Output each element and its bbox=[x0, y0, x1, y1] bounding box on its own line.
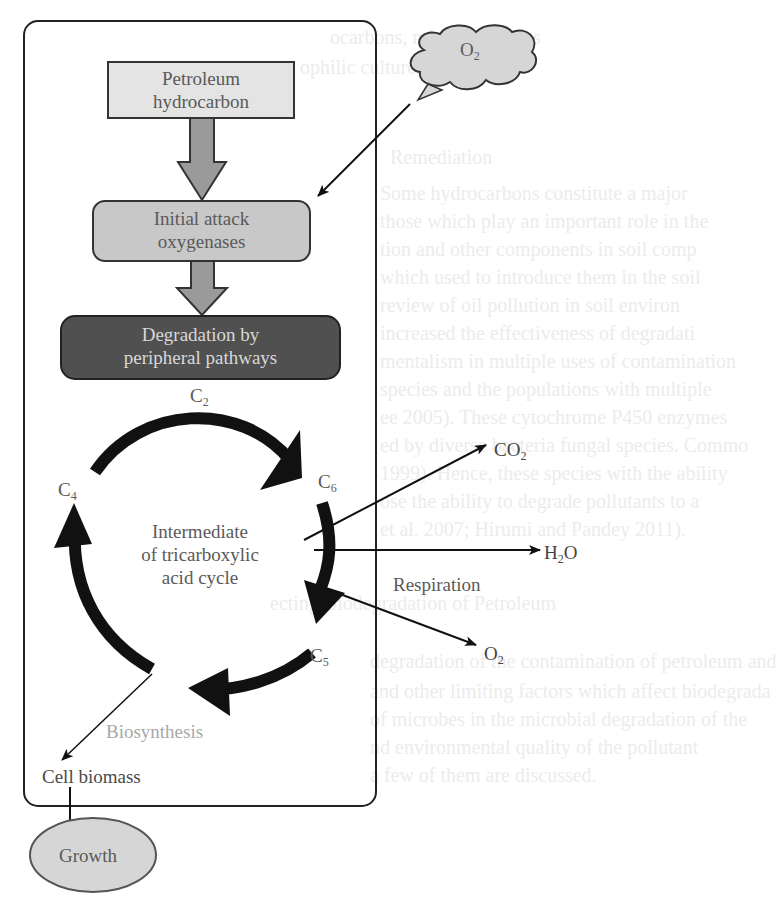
degradation-line2: peripheral pathways bbox=[61, 346, 340, 369]
petroleum-line1: Petroleum bbox=[108, 67, 294, 90]
tca-intermediate-label: Intermediate of tricarboxylic acid cycle bbox=[100, 520, 300, 589]
initial-attack-line2: oxygenases bbox=[93, 230, 310, 253]
c6-label: C6 bbox=[318, 472, 337, 494]
petroleum-line2: hydrocarbon bbox=[108, 90, 294, 113]
down-arrow-1 bbox=[178, 118, 226, 200]
cell-biomass-label: Cell biomass bbox=[42, 767, 141, 786]
growth-label: Growth bbox=[59, 846, 117, 865]
co2-label: CO2 bbox=[494, 440, 526, 462]
c4-label: C4 bbox=[58, 480, 77, 502]
biosynthesis-arrow bbox=[62, 674, 152, 760]
tca-line2: of tricarboxylic bbox=[100, 543, 300, 566]
c2-label: C2 bbox=[190, 386, 209, 408]
down-arrow-2 bbox=[177, 261, 227, 315]
h2o-label: H2O bbox=[544, 543, 577, 565]
cycle-arrowhead-c5 bbox=[304, 580, 345, 624]
initial-attack-line1: Initial attack bbox=[93, 207, 310, 230]
initial-attack-label: Initial attack oxygenases bbox=[93, 207, 310, 253]
oxygen-cloud-label: O2 bbox=[460, 40, 480, 62]
degradation-label: Degradation by peripheral pathways bbox=[61, 323, 340, 369]
cycle-arrowhead-bottom bbox=[188, 668, 230, 716]
o2-output-label: O2 bbox=[484, 644, 504, 666]
cycle-arrowhead-c4 bbox=[54, 503, 92, 548]
degradation-line1: Degradation by bbox=[61, 323, 340, 346]
tca-line1: Intermediate bbox=[100, 520, 300, 543]
respiration-label: Respiration bbox=[393, 575, 481, 594]
petroleum-hydrocarbon-label: Petroleum hydrocarbon bbox=[108, 67, 294, 113]
oxygen-inflow-arrow bbox=[318, 104, 410, 196]
biosynthesis-label: Biosynthesis bbox=[106, 722, 203, 741]
c5-label: C5 bbox=[310, 646, 329, 668]
tca-line3: acid cycle bbox=[100, 566, 300, 589]
